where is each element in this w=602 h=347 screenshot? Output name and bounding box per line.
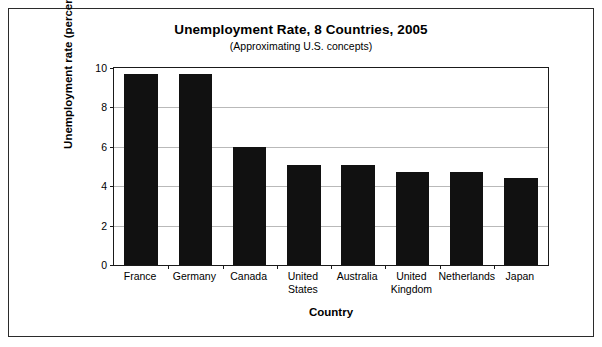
x-tick-mark [277, 265, 278, 269]
x-tick-mark [385, 265, 386, 269]
chart-subtitle: (Approximating U.S. concepts) [9, 39, 593, 53]
bar [341, 165, 375, 265]
y-tick-label: 4 [101, 180, 107, 192]
bar [124, 74, 158, 265]
x-tick-label: United States [276, 270, 330, 295]
bar [450, 172, 484, 265]
bar-series [114, 68, 548, 265]
x-tick-label: Netherlands [439, 270, 493, 283]
x-tick-label: Canada [222, 270, 276, 283]
plot-area: 0246810 [113, 67, 549, 266]
x-tick-label: Australia [330, 270, 384, 283]
x-tick-mark [440, 265, 441, 269]
y-tick-label: 2 [101, 220, 107, 232]
x-axis-tick-labels: FranceGermanyCanadaUnited StatesAustrali… [113, 270, 549, 304]
chart-figure-frame: Unemployment Rate, 8 Countries, 2005 (Ap… [8, 8, 594, 337]
y-tick-label: 0 [101, 259, 107, 271]
y-tick-mark [110, 265, 114, 266]
bar [179, 74, 213, 265]
y-tick-label: 6 [101, 141, 107, 153]
chart-title-block: Unemployment Rate, 8 Countries, 2005 (Ap… [9, 21, 593, 53]
bar [504, 178, 538, 265]
bar [287, 165, 321, 265]
x-tick-mark [331, 265, 332, 269]
x-tick-mark [168, 265, 169, 269]
x-tick-label: Japan [493, 270, 547, 283]
x-axis-title: Country [113, 306, 549, 318]
y-tick-label: 8 [101, 101, 107, 113]
x-tick-label: United Kingdom [384, 270, 438, 295]
x-tick-label: Germany [167, 270, 221, 283]
y-tick-label: 10 [95, 62, 107, 74]
x-tick-mark [494, 265, 495, 269]
chart-title: Unemployment Rate, 8 Countries, 2005 [9, 21, 593, 38]
bar [233, 147, 267, 265]
y-axis-title: Unemployment rate (percent) [62, 0, 74, 174]
x-tick-mark [223, 265, 224, 269]
bar [396, 172, 430, 265]
x-tick-label: France [113, 270, 167, 283]
